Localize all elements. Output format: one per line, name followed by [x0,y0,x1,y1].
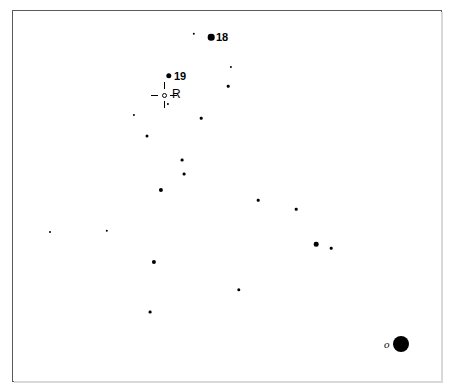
label-star-o: o [384,339,390,350]
label-target-r: R [172,88,181,100]
label-star-18: 18 [216,32,228,43]
finder-chart: 18 19 R o [0,0,454,390]
chart-frame [12,10,442,382]
crosshair-tick-top [164,82,165,89]
crosshair-tick-left [151,95,158,96]
crosshair-tick-bottom [164,101,165,108]
crosshair-ring [162,93,167,98]
label-star-19: 19 [174,71,186,82]
